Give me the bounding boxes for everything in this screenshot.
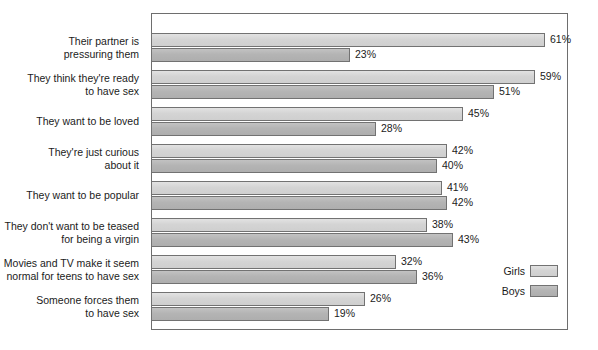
bar-value-label: 59% bbox=[535, 69, 561, 83]
category-bars: 59%51% bbox=[151, 66, 598, 103]
bar-value-label: 26% bbox=[365, 291, 391, 305]
chart-category-row: They don't want to be teased for being a… bbox=[0, 214, 598, 251]
bar-rect-boys bbox=[151, 270, 417, 284]
category-label: Their partner is pressuring them bbox=[0, 29, 145, 66]
bar-value-label: 40% bbox=[437, 158, 463, 172]
bar-chart: Their partner is pressuring them61%23%Th… bbox=[0, 0, 598, 350]
bar-rect-girls bbox=[151, 144, 447, 158]
bar-rect-girls bbox=[151, 218, 427, 232]
bar-rect-boys bbox=[151, 122, 376, 136]
chart-category-row: They're just curious about it42%40% bbox=[0, 140, 598, 177]
bar-rect-boys bbox=[151, 159, 437, 173]
category-label: They want to be loved bbox=[0, 103, 145, 140]
category-bars: 38%43% bbox=[151, 214, 598, 251]
chart-category-row: They think they're ready to have sex59%5… bbox=[0, 66, 598, 103]
bar-value-label: 41% bbox=[442, 180, 468, 194]
bar-value-label: 43% bbox=[453, 232, 479, 246]
bar-rect-boys bbox=[151, 196, 447, 210]
legend-item: Girls bbox=[492, 262, 558, 279]
category-bars: 61%23% bbox=[151, 29, 598, 66]
chart-legend: GirlsBoys bbox=[492, 262, 558, 302]
category-bars: 45%28% bbox=[151, 103, 598, 140]
bar-value-label: 19% bbox=[329, 306, 355, 320]
legend-label: Girls bbox=[503, 265, 525, 277]
bar-rect-boys bbox=[151, 48, 350, 62]
category-label: They don't want to be teased for being a… bbox=[0, 214, 145, 251]
legend-item: Boys bbox=[492, 282, 558, 299]
bar-value-label: 28% bbox=[376, 121, 402, 135]
bar-value-label: 51% bbox=[494, 84, 520, 98]
bar-rect-girls bbox=[151, 70, 535, 84]
bar-value-label: 32% bbox=[396, 254, 422, 268]
bar-value-label: 61% bbox=[545, 32, 571, 46]
bar-rect-girls bbox=[151, 181, 442, 195]
legend-swatch bbox=[530, 285, 558, 297]
bar-rect-boys bbox=[151, 233, 453, 247]
bar-rect-girls bbox=[151, 107, 463, 121]
chart-category-row: They want to be popular41%42% bbox=[0, 177, 598, 214]
bar-rect-boys bbox=[151, 307, 329, 321]
category-bars: 42%40% bbox=[151, 140, 598, 177]
bar-value-label: 45% bbox=[463, 106, 489, 120]
category-label: Movies and TV make it seem normal for te… bbox=[0, 251, 145, 288]
bar-value-label: 38% bbox=[427, 217, 453, 231]
legend-swatch bbox=[530, 265, 558, 277]
chart-category-row: Their partner is pressuring them61%23% bbox=[0, 29, 598, 66]
category-label: Someone forces them to have sex bbox=[0, 288, 145, 325]
bar-value-label: 42% bbox=[447, 143, 473, 157]
bar-rect-girls bbox=[151, 255, 396, 269]
category-bars: 41%42% bbox=[151, 177, 598, 214]
bar-value-label: 36% bbox=[417, 269, 443, 283]
category-label: They want to be popular bbox=[0, 177, 145, 214]
bar-value-label: 23% bbox=[350, 47, 376, 61]
bar-value-label: 42% bbox=[447, 195, 473, 209]
bar-rect-girls bbox=[151, 33, 545, 47]
bar-rect-girls bbox=[151, 292, 365, 306]
bar-rect-boys bbox=[151, 85, 494, 99]
chart-category-row: They want to be loved45%28% bbox=[0, 103, 598, 140]
category-label: They're just curious about it bbox=[0, 140, 145, 177]
category-label: They think they're ready to have sex bbox=[0, 66, 145, 103]
legend-label: Boys bbox=[502, 285, 525, 297]
